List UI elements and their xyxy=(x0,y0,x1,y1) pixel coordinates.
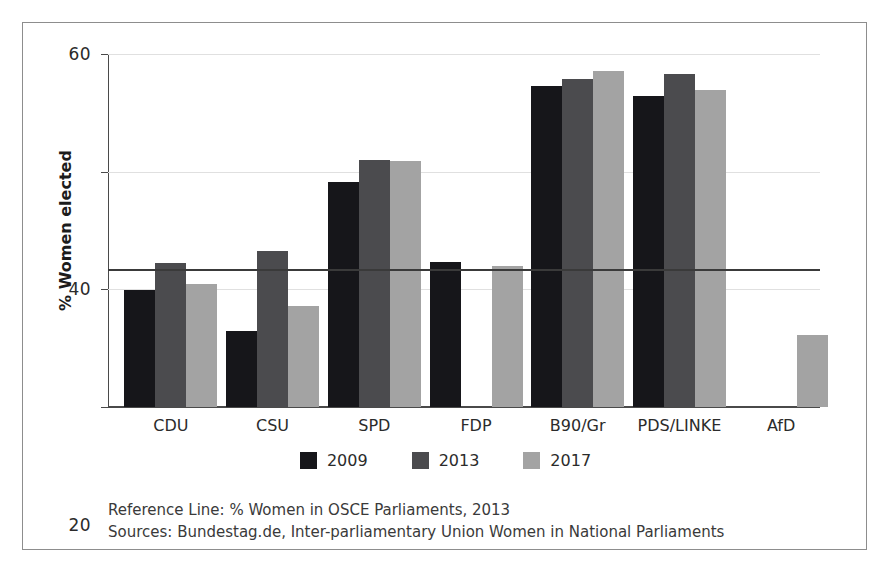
y-tick-mark: 0 xyxy=(101,407,108,408)
bar xyxy=(562,79,593,407)
x-tick-label: SPD xyxy=(358,416,390,435)
bar-group xyxy=(633,54,726,407)
y-axis-title: % Women elected xyxy=(54,54,78,407)
footnotes: Reference Line: % Women in OSCE Parliame… xyxy=(108,499,724,543)
y-tick-mark: 60 xyxy=(101,54,108,55)
legend-swatch-icon xyxy=(523,452,540,469)
bar xyxy=(531,86,562,407)
bar xyxy=(390,161,421,407)
bar-group xyxy=(430,54,523,407)
bar xyxy=(664,74,695,407)
x-tick-label: B90/Gr xyxy=(550,416,606,435)
bar-group xyxy=(226,54,319,407)
bar xyxy=(359,160,390,407)
x-tick-label: CSU xyxy=(256,416,289,435)
legend-item[interactable]: 2013 xyxy=(412,451,480,470)
y-tick-label: 20 xyxy=(69,515,91,535)
y-tick-mark: 40 xyxy=(101,172,108,173)
footnote-sources: Sources: Bundestag.de, Inter-parliamenta… xyxy=(108,521,724,543)
legend-label: 2017 xyxy=(550,451,591,470)
figure-frame: % Women elected 0204060 CDUCSUSPDFDPB90/… xyxy=(22,22,867,550)
bar xyxy=(797,335,828,407)
y-tick-label: 60 xyxy=(69,44,91,64)
y-axis-spine xyxy=(108,54,109,407)
legend-label: 2013 xyxy=(439,451,480,470)
reference-line xyxy=(108,269,820,271)
x-tick-label: AfD xyxy=(767,416,795,435)
legend-item[interactable]: 2017 xyxy=(523,451,591,470)
x-tick-label: CDU xyxy=(153,416,188,435)
bar xyxy=(328,182,359,407)
bar xyxy=(695,90,726,407)
bar xyxy=(430,262,461,407)
plot-area: % Women elected 0204060 CDUCSUSPDFDPB90/… xyxy=(108,54,820,407)
legend-item[interactable]: 2009 xyxy=(300,451,368,470)
bar xyxy=(257,251,288,407)
y-tick-label: 40 xyxy=(69,279,91,299)
bar xyxy=(124,290,155,407)
bar xyxy=(288,306,319,407)
bar xyxy=(155,263,186,407)
x-tick-label: FDP xyxy=(460,416,491,435)
bar-group xyxy=(735,54,828,407)
x-tick-label: PDS/LINKE xyxy=(638,416,722,435)
legend-swatch-icon xyxy=(300,452,317,469)
bar xyxy=(186,284,217,407)
bar-group xyxy=(124,54,217,407)
bar xyxy=(226,331,257,407)
y-tick-mark: 20 xyxy=(101,289,108,290)
bar xyxy=(593,71,624,407)
footnote-reference-line: Reference Line: % Women in OSCE Parliame… xyxy=(108,499,724,521)
bar-group xyxy=(531,54,624,407)
bar xyxy=(633,96,664,407)
legend-swatch-icon xyxy=(412,452,429,469)
bar xyxy=(492,266,523,407)
legend-label: 2009 xyxy=(327,451,368,470)
bar-group xyxy=(328,54,421,407)
chart-legend: 200920132017 xyxy=(23,451,868,470)
